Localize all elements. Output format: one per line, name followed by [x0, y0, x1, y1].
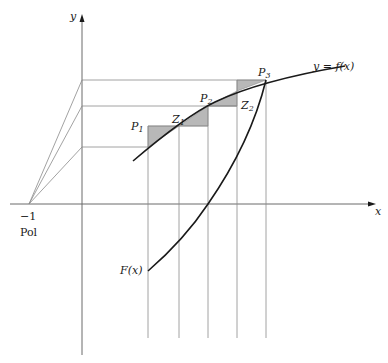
diagram-canvas: y x −1 Pol y = f(x) F(x) P1 P2 P3 Z1 Z2: [0, 0, 388, 363]
curve-f-label: y = f(x): [312, 60, 354, 73]
pole-name-label: Pol: [20, 226, 38, 239]
point-label-z1: Z1: [171, 113, 185, 127]
point-label-p2: P2: [199, 92, 213, 106]
x-axis-label: x: [375, 205, 382, 218]
curve-F-label: F(x): [119, 264, 142, 277]
point-label-p1: P1: [130, 120, 144, 134]
y-axis-arrow-icon: [80, 14, 85, 22]
y-axis-label: y: [69, 10, 77, 23]
pole-ray-1: [29, 80, 82, 204]
point-label-z2: Z2: [240, 99, 254, 113]
pole-value-label: −1: [20, 210, 36, 223]
point-label-p3: P3: [257, 66, 271, 80]
shaded-region-4: [237, 80, 266, 91]
